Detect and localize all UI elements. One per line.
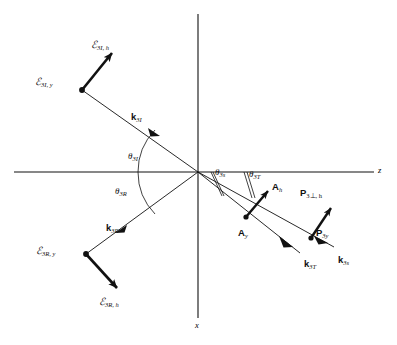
- label-A-h-sub: h: [279, 186, 282, 193]
- A-glyph: A: [238, 227, 245, 238]
- node-P-3y: [308, 235, 313, 240]
- vector-E3I-h: [82, 53, 112, 90]
- label-theta-3R: θ3R: [115, 187, 127, 197]
- label-E-3R-h-sub: 3R, h: [105, 301, 119, 308]
- label-A-y: Ay: [238, 228, 248, 239]
- label-E-3I-h-sub: 3I, h: [97, 44, 109, 51]
- A-glyph: A: [272, 181, 279, 192]
- label-k-3I-sub: 3I: [136, 116, 141, 123]
- label-theta-3T: θ3T: [249, 170, 260, 180]
- label-theta-3R-sub: 3R: [119, 190, 126, 197]
- arc-theta-3R: [138, 172, 155, 214]
- physics-vector-diagram: z x ℰ3I, h ℰ3I, y ℰ3R, y ℰ3R, h k3I k3R …: [0, 0, 397, 345]
- label-P-3y: P3y: [316, 228, 328, 239]
- label-E-3R-y-sub: 3R, y: [42, 250, 55, 257]
- label-E-3R-h: ℰ3R, h: [99, 297, 119, 308]
- label-P-3perp-h-sub: 3⊥, h: [306, 192, 322, 199]
- label-E-3I-y: ℰ3I, y: [35, 77, 53, 88]
- label-theta-3s-sub: 3s: [219, 171, 225, 178]
- ray-reflected-k3R: [86, 172, 198, 254]
- label-E-3R-y: ℰ3R, y: [36, 246, 55, 257]
- label-theta-3I-sub: 3I: [132, 155, 137, 162]
- label-theta-3T-sub: 3T: [253, 173, 260, 180]
- label-A-h: Ah: [272, 182, 282, 193]
- label-k-3I: k3I: [131, 112, 142, 123]
- label-theta-3s: θ3s: [215, 168, 225, 178]
- label-k-3s-sub: 3s: [343, 259, 349, 266]
- node-A-y: [243, 214, 248, 219]
- vector-A-h: [246, 191, 268, 217]
- diagram-canvas: [0, 0, 397, 345]
- label-theta-3I: θ3I: [128, 152, 138, 162]
- axis-label-x: x: [195, 320, 199, 330]
- vector-E3R-h: [86, 254, 117, 288]
- axis-label-z: z: [378, 165, 381, 175]
- label-E-3I-h: ℰ3I, h: [91, 40, 109, 51]
- label-E-3I-y-sub: 3I, y: [41, 81, 53, 88]
- label-k-3R: k3R: [106, 223, 119, 234]
- label-A-y-sub: y: [245, 232, 248, 239]
- node-E3R-y: [83, 251, 89, 257]
- node-E3I-y: [79, 87, 85, 93]
- label-P-3y-sub: 3y: [322, 232, 328, 239]
- ray-incident-k3I: [82, 90, 198, 172]
- label-P-3perp-h: P3⊥, h: [300, 188, 322, 199]
- label-k-3s: k3s: [338, 255, 349, 266]
- label-k-3T: k3T: [304, 259, 316, 270]
- label-k-3T-sub: 3T: [309, 263, 316, 270]
- label-k-3R-sub: 3R: [111, 227, 118, 234]
